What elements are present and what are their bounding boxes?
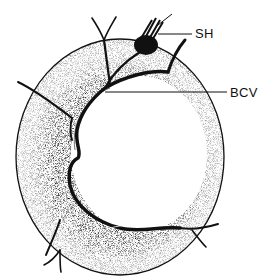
label-bcv: BCV xyxy=(230,86,258,99)
diagram-figure xyxy=(0,0,266,280)
ring-diagram xyxy=(0,0,266,280)
label-sh: SH xyxy=(195,27,214,40)
stippled-ring xyxy=(16,39,224,275)
